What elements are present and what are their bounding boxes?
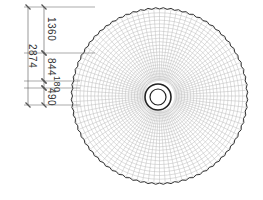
- drawing-canvas: [0, 0, 263, 200]
- dim-label-1360: 1360: [46, 17, 57, 41]
- radial-mesh: [73, 9, 247, 183]
- dim-label-844: 844: [46, 58, 57, 76]
- dim-label-overall: 2874: [27, 44, 38, 68]
- dim-label-490: 490: [46, 88, 57, 106]
